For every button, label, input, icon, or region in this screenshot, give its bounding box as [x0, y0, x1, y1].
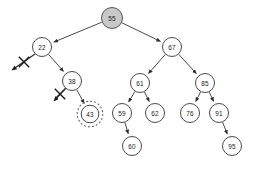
node-label: 85 [201, 80, 209, 87]
tree-node-60[interactable]: 60 [123, 137, 142, 156]
tree-node-22[interactable]: 22 [33, 38, 52, 57]
tree-node-91[interactable]: 91 [210, 104, 229, 123]
node-label: 55 [108, 15, 116, 22]
tree-edge [148, 54, 165, 73]
tree-edge [196, 92, 201, 102]
tree-edge [223, 122, 228, 134]
binary-search-tree-figure: 55226738618543596276916095 [0, 0, 255, 169]
tree-diagram-canvas: 55226738618543596276916095 [0, 0, 255, 169]
node-label: 59 [118, 110, 126, 117]
tree-node-59[interactable]: 59 [113, 104, 132, 123]
tree-node-67[interactable]: 67 [163, 38, 182, 57]
node-label: 43 [86, 111, 94, 118]
node-label: 38 [68, 78, 76, 85]
tree-node-43[interactable]: 43 [81, 105, 99, 123]
tree-edge [129, 92, 135, 103]
tree-node-61[interactable]: 61 [131, 74, 150, 93]
tree-node-62[interactable]: 62 [146, 104, 165, 123]
tree-edge [122, 23, 161, 42]
tree-node-85[interactable]: 85 [196, 74, 215, 93]
tree-node-38[interactable]: 38 [63, 72, 82, 91]
node-label: 62 [151, 110, 159, 117]
node-label: 91 [215, 110, 223, 117]
node-label: 95 [228, 143, 236, 150]
tree-edge [49, 54, 64, 71]
node-label: 76 [186, 110, 194, 117]
tree-node-76[interactable]: 76 [181, 104, 200, 123]
tree-edge [179, 54, 197, 73]
node-label: 67 [168, 44, 176, 51]
tree-edge [125, 123, 128, 134]
tree-edge [144, 92, 149, 102]
node-label: 60 [128, 143, 136, 150]
tree-node-55[interactable]: 55 [102, 8, 123, 29]
tree-edge [77, 90, 84, 104]
null-pointer-layer [12, 54, 66, 101]
node-label: 22 [38, 44, 46, 51]
null-pointer-cross-icon [55, 89, 65, 99]
tree-edge [209, 92, 213, 101]
node-label: 61 [136, 80, 144, 87]
tree-node-95[interactable]: 95 [223, 137, 242, 156]
tree-edge [54, 22, 102, 42]
null-pointer-cross-icon [19, 57, 29, 67]
